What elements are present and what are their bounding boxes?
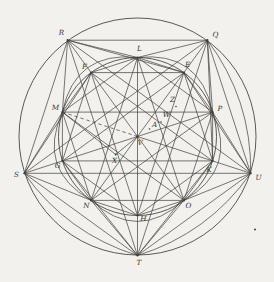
label-K: K bbox=[205, 165, 212, 174]
point-Z bbox=[175, 106, 177, 108]
segment-F-L bbox=[91, 58, 137, 73]
stray-mark bbox=[254, 229, 256, 231]
label-G: G bbox=[55, 161, 61, 170]
label-M: M bbox=[51, 103, 60, 112]
point-U bbox=[250, 172, 252, 174]
label-S: S bbox=[14, 170, 19, 179]
geometry-construction-figure: RQUTSLEPKOHNGMFVXA′WZ bbox=[0, 0, 274, 282]
point-M bbox=[61, 111, 63, 113]
point-G bbox=[61, 160, 63, 162]
segment-S-F bbox=[24, 73, 91, 174]
label-R: R bbox=[58, 28, 65, 37]
segment-Q-U bbox=[207, 40, 250, 173]
segment-T-S bbox=[24, 173, 137, 255]
label-E: E bbox=[184, 60, 191, 69]
label-V: V bbox=[137, 138, 143, 147]
point-N bbox=[90, 199, 92, 201]
label-L: L bbox=[136, 44, 142, 53]
label-X: X bbox=[111, 156, 118, 165]
segment-H-N bbox=[91, 200, 137, 215]
label-Z: Z bbox=[169, 95, 176, 104]
segment-S-R bbox=[24, 40, 67, 173]
label-N: N bbox=[82, 201, 90, 210]
point-Q bbox=[206, 39, 208, 41]
label-O: O bbox=[186, 201, 192, 210]
scanned-figure-page: RQUTSLEPKOHNGMFVXA′WZ bbox=[0, 0, 274, 282]
point-W bbox=[160, 121, 162, 123]
point-T bbox=[136, 254, 138, 256]
label-F: F bbox=[81, 62, 88, 71]
segment-K-U bbox=[213, 161, 251, 173]
point-P bbox=[212, 111, 214, 113]
segment-M-X bbox=[62, 112, 115, 154]
point-S bbox=[23, 172, 25, 174]
point-K bbox=[212, 160, 214, 162]
label-A1: A′ bbox=[151, 120, 159, 129]
segment-U-T bbox=[138, 173, 251, 255]
point-L bbox=[136, 56, 138, 58]
point-A1 bbox=[149, 128, 151, 130]
label-Q: Q bbox=[213, 30, 219, 39]
point-H bbox=[136, 214, 138, 216]
label-T: T bbox=[137, 258, 143, 267]
label-U: U bbox=[255, 173, 262, 182]
label-H: H bbox=[139, 214, 147, 223]
segment-L-N bbox=[91, 58, 137, 201]
segment-U-E bbox=[184, 73, 251, 174]
point-E bbox=[183, 72, 185, 74]
point-F bbox=[90, 72, 92, 74]
point-R bbox=[67, 39, 69, 41]
dashed-segment-M-V bbox=[62, 112, 137, 136]
label-P: P bbox=[217, 104, 223, 113]
label-W: W bbox=[163, 110, 171, 119]
